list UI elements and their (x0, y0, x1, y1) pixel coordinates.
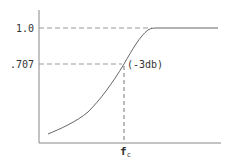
minus-3db-annotation: (-3db) (127, 59, 163, 70)
y-tick-label-1.0: 1.0 (16, 23, 34, 34)
fc-subscript: c (127, 151, 131, 159)
x-tick-label-fc: fc (120, 145, 131, 159)
frequency-response-diagram: 1.0 .707 (-3db) fc (0, 0, 232, 160)
response-curve (48, 28, 218, 134)
y-tick-label-0.707: .707 (10, 59, 34, 70)
fc-main: f (120, 145, 127, 158)
